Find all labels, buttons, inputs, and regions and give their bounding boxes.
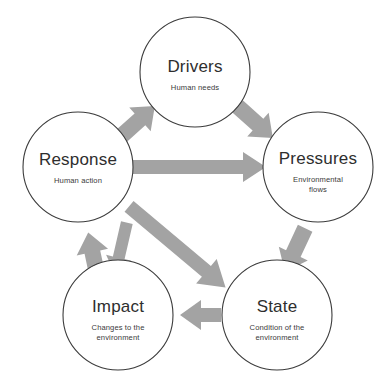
node-drivers[interactable]: Drivers Human needs — [140, 17, 250, 127]
node-pressures-subtitle-line1: Environmental — [293, 175, 343, 184]
node-impact[interactable]: Impact Changes to the environment — [63, 260, 173, 370]
node-state-subtitle-line2: environment — [256, 333, 300, 342]
arrow-state-to-impact — [180, 300, 221, 330]
node-state[interactable]: State Condition of the environment — [222, 260, 332, 370]
node-impact-title: Impact — [92, 297, 144, 316]
node-impact-subtitle-line1: Changes to the — [92, 323, 145, 332]
arrow-response-to-pressures — [133, 152, 266, 182]
node-state-title: State — [257, 297, 298, 316]
node-response-title: Response — [39, 150, 117, 169]
node-pressures[interactable]: Pressures Environmental flows — [263, 112, 373, 222]
node-drivers-subtitle-line1: Human needs — [171, 83, 219, 92]
node-pressures-subtitle-line2: flows — [309, 185, 327, 194]
node-pressures-title: Pressures — [279, 149, 357, 168]
node-impact-subtitle-line2: environment — [97, 333, 141, 342]
dpsir-diagram: Drivers Human needs Pressures Environmen… — [0, 0, 386, 387]
node-drivers-title: Drivers — [167, 57, 222, 76]
node-state-subtitle-line1: Condition of the — [250, 323, 305, 332]
node-response[interactable]: Response Human action — [23, 112, 133, 222]
node-response-subtitle-line1: Human action — [54, 176, 102, 185]
